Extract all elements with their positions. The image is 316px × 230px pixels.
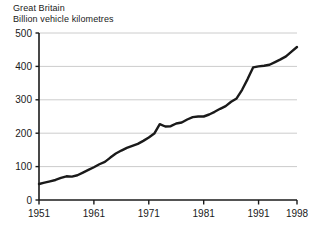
line-chart-plot: 0100200300400500 19511961197119811991199… [0, 0, 316, 230]
x-tick-label: 1951 [28, 208, 51, 219]
x-tick-label: 1991 [247, 208, 270, 219]
x-tick-label: 1961 [83, 208, 106, 219]
y-tick-label: 100 [15, 161, 32, 172]
y-tick-label: 300 [15, 94, 32, 105]
y-tick-label: 0 [26, 195, 32, 206]
y-tick-label: 400 [15, 61, 32, 72]
y-tick-label: 200 [15, 128, 32, 139]
chart-container: Great Britain Billion vehicle kilometres… [0, 0, 316, 230]
x-axis-tick-labels: 195119611971198119911998 [28, 208, 309, 219]
x-tick-label: 1998 [286, 208, 309, 219]
data-series-line [39, 47, 297, 184]
y-axis-tick-labels: 0100200300400500 [15, 28, 32, 206]
y-tick-label: 500 [15, 28, 32, 39]
x-tick-label: 1981 [193, 208, 216, 219]
x-tick-label: 1971 [138, 208, 161, 219]
gridlines-group [39, 33, 297, 167]
